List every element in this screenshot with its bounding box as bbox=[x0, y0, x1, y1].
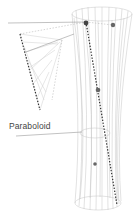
wireframe-surface bbox=[72, 7, 132, 210]
point bbox=[96, 88, 101, 93]
paraboloid-wireframe-diagram bbox=[0, 0, 139, 224]
point bbox=[111, 23, 115, 27]
dashed-axes bbox=[20, 22, 117, 205]
points bbox=[84, 21, 116, 166]
point bbox=[93, 162, 97, 166]
paraboloid-label: Paraboloid bbox=[9, 121, 51, 131]
triangle-wireframe bbox=[20, 34, 62, 110]
focus-point bbox=[84, 21, 89, 26]
